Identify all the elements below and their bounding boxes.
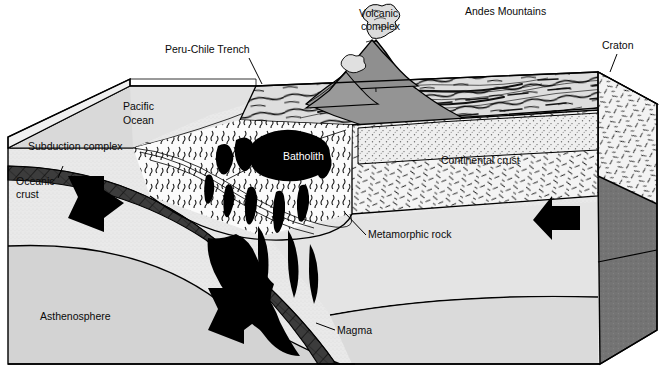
label-asthenosphere: Asthenosphere — [40, 310, 111, 322]
label-peru-chile-trench: Peru-Chile Trench — [165, 43, 250, 55]
label-craton: Craton — [602, 39, 634, 51]
diagram-canvas: Peru-Chile Trench Volcanic complex Andes… — [0, 0, 663, 380]
label-pacific-ocean-line2: Ocean — [123, 114, 154, 126]
label-andes-mountains: Andes Mountains — [465, 5, 546, 17]
label-magma: Magma — [337, 324, 372, 336]
label-pacific-ocean-line1: Pacific — [123, 100, 154, 112]
label-oceanic-crust-line1: Oceanic — [16, 175, 55, 187]
subduction-zone-block-diagram: Peru-Chile Trench Volcanic complex Andes… — [0, 0, 663, 380]
label-batholith: Batholith — [283, 150, 324, 162]
label-volcanic-complex-line1: Volcanic — [359, 7, 398, 19]
block-right-face — [598, 72, 657, 364]
label-volcanic-complex-line2: complex — [361, 20, 401, 32]
label-metamorphic-rock: Metamorphic rock — [368, 228, 452, 240]
label-subduction-complex: Subduction complex — [28, 140, 123, 152]
label-continental-crust: Continental crust — [441, 154, 520, 166]
label-oceanic-crust-line2: crust — [16, 188, 39, 200]
